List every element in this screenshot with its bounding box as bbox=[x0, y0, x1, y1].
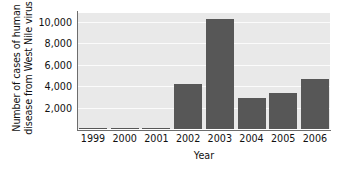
x-tick-label-2005: 2005 bbox=[269, 133, 297, 144]
x-axis-title: Year bbox=[78, 150, 330, 161]
bar-1999 bbox=[79, 128, 107, 129]
x-tick-label-2001: 2001 bbox=[142, 133, 170, 144]
bar-slot-2000 bbox=[111, 13, 139, 129]
x-tick-label-2004: 2004 bbox=[238, 133, 266, 144]
bar-slot-2004 bbox=[238, 13, 266, 129]
y-axis-title-line-1: Number of cases of human bbox=[11, 4, 23, 131]
plot-area bbox=[78, 13, 330, 129]
bar-slot-1999 bbox=[79, 13, 107, 129]
x-axis-ticks: 19992000200120022003200420052006 bbox=[78, 133, 330, 144]
bar-2006 bbox=[301, 79, 329, 129]
x-tick-label-2006: 2006 bbox=[301, 133, 329, 144]
x-axis-line bbox=[77, 130, 331, 131]
y-tick-label: 10,000 bbox=[26, 16, 72, 27]
bar-2004 bbox=[238, 98, 266, 129]
bar-2001 bbox=[142, 128, 170, 129]
x-tick-label-2000: 2000 bbox=[111, 133, 139, 144]
y-axis-ticks: 2,0004,0006,0008,00010,000 bbox=[26, 0, 72, 140]
bar-2002 bbox=[174, 84, 202, 129]
bar-slot-2006 bbox=[301, 13, 329, 129]
bar-2003 bbox=[206, 19, 234, 129]
x-tick-label-2003: 2003 bbox=[206, 133, 234, 144]
y-tick-label: 6,000 bbox=[26, 59, 72, 70]
bar-series bbox=[78, 13, 330, 129]
bar-slot-2001 bbox=[142, 13, 170, 129]
y-tick-label: 2,000 bbox=[26, 102, 72, 113]
x-tick-label-2002: 2002 bbox=[174, 133, 202, 144]
bar-chart-figure: Number of cases of human disease from We… bbox=[0, 0, 337, 175]
bar-2005 bbox=[269, 93, 297, 129]
y-tick-label: 4,000 bbox=[26, 81, 72, 92]
bar-slot-2002 bbox=[174, 13, 202, 129]
y-tick-label: 8,000 bbox=[26, 38, 72, 49]
bar-slot-2003 bbox=[206, 13, 234, 129]
x-tick-label-1999: 1999 bbox=[79, 133, 107, 144]
bar-2000 bbox=[111, 128, 139, 129]
bar-slot-2005 bbox=[269, 13, 297, 129]
